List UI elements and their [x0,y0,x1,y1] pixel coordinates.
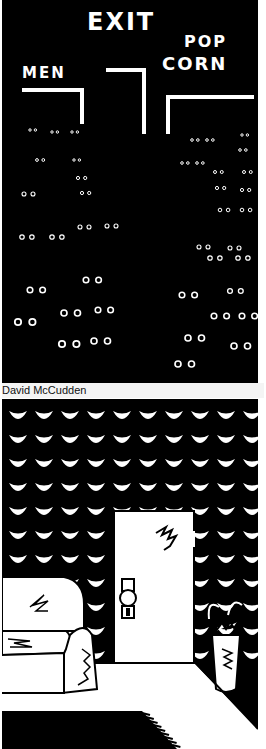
popcorn-sign-line2: CORN [162,53,227,74]
theater-panel: EXIT MEN POP CORN [2,0,258,383]
artist-credit: David McCudden [2,383,264,398]
door [114,511,195,663]
room-panel [2,399,258,749]
theater-illustration: EXIT MEN POP CORN [2,0,258,383]
exit-sign: EXIT [87,8,155,36]
men-sign: MEN [22,64,66,82]
armchair [2,577,97,693]
room-illustration [2,399,258,749]
popcorn-sign-line1: POP [184,32,227,51]
door-knob-lock [120,579,136,618]
